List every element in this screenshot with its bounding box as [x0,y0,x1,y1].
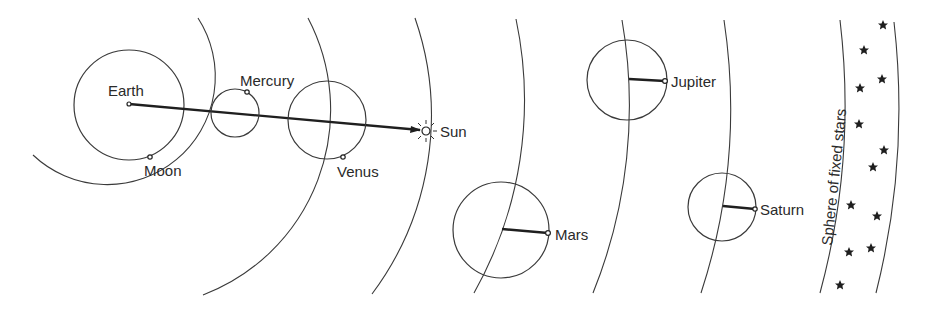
star-icon [854,119,864,129]
star-icon [855,83,865,93]
saturn-marker [753,207,757,211]
mars-epicycle [453,182,549,278]
venus-deferent [203,18,331,295]
star-icon [846,200,856,210]
star-icon [859,45,869,55]
saturn-arm [723,206,755,209]
geocentric-diagram: Earth Moon Mercury Venus Sun Mars Jupite… [0,0,927,309]
star-icon [868,162,878,172]
star-icon [879,145,889,155]
jupiter-arm [629,79,665,81]
planet-markers [127,79,757,236]
star-icon [872,211,882,221]
star-icon [878,20,888,30]
label-saturn: Saturn [760,201,804,218]
saturn-deferent [701,20,731,293]
mercury-marker [245,90,249,94]
label-mercury: Mercury [240,72,295,89]
sun-deferent [372,18,431,294]
mars-deferent [474,19,524,293]
label-sun: Sun [440,123,467,140]
label-fixed-stars: Sphere of fixed stars [818,108,849,247]
label-moon: Moon [144,162,182,179]
deferent-orbits [33,18,899,295]
mars-arm [502,229,548,233]
star-icon [844,247,854,257]
earth-marker [127,102,131,106]
star-icon [835,280,845,290]
mars-marker [546,231,551,236]
label-jupiter: Jupiter [671,73,716,90]
star-icon [866,243,876,253]
label-mars: Mars [555,226,588,243]
jupiter-deferent [593,20,629,293]
label-earth: Earth [108,82,144,99]
label-venus: Venus [337,163,379,180]
jupiter-marker [663,79,668,84]
venus-marker [341,155,345,159]
earth-sun-line [129,104,420,130]
sun-rays-icon [418,120,437,142]
star-icon [877,74,887,84]
moon-marker [148,155,152,159]
fixed-stars-outer-arc [876,22,899,293]
arrow-head [410,126,421,133]
